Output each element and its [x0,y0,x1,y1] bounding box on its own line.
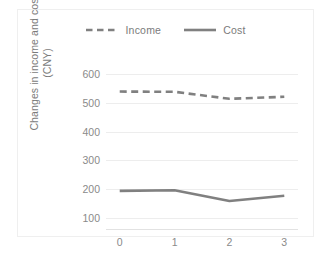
chart-container: Income Cost Changes in income and cost (… [17,9,314,237]
y-axis-tick-label: 400 [82,126,100,138]
legend-label-income: Income [125,24,161,36]
plot-area: 100200300400500600 0123 [106,62,298,230]
legend-entry-cost[interactable]: Cost [183,24,245,36]
x-axis-tick-label: 0 [117,236,123,248]
y-axis-tick-label: 200 [82,183,100,195]
y-axis-tick-label: 300 [82,154,100,166]
series-lines [106,62,298,230]
legend-label-cost: Cost [223,24,245,36]
series-line-income [120,92,285,99]
y-axis-tick-label: 100 [82,212,100,224]
dashed-line-swatch-icon [85,25,119,35]
y-axis-title-line-1: Changes in income and cost [28,0,40,131]
y-axis-tick-label: 600 [82,68,100,80]
legend-entry-income[interactable]: Income [85,24,161,36]
y-axis-tick-label: 500 [82,97,100,109]
chart-legend: Income Cost [18,24,313,36]
y-axis-title: Changes in income and cost (CNY) [21,0,61,148]
solid-line-swatch-icon [183,25,217,35]
x-axis-tick-label: 1 [172,236,178,248]
y-axis-title-line-2: (CNY) [41,48,53,78]
series-line-cost [120,190,285,201]
x-axis-tick-label: 3 [281,236,287,248]
plot-wrapper: 100200300400500600 0123 [86,50,303,226]
x-axis-tick-label: 2 [227,236,233,248]
